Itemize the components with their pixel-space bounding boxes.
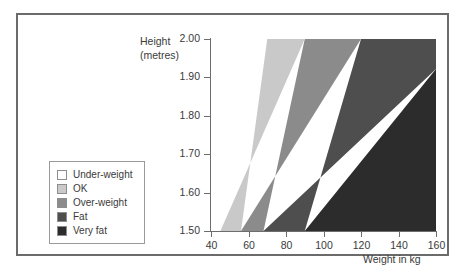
x-tick-100: 100 [324, 231, 325, 237]
y-tick-label-1.50: 1.50 [180, 224, 200, 237]
x-tick-label-160: 160 [428, 239, 446, 252]
x-tick-label-60: 60 [243, 239, 255, 252]
y-tick-label-1.60: 1.60 [180, 186, 200, 199]
legend-item-over-weight: Over-weight [57, 196, 138, 209]
y-axis-line [210, 38, 211, 232]
x-tick-80: 80 [286, 231, 287, 237]
legend-item-very-fat: Very fat [57, 224, 138, 237]
y-tick-label-2.00: 2.00 [180, 32, 200, 45]
y-axis-title-line2: (metres) [140, 49, 202, 63]
x-tick-40: 40 [211, 231, 212, 237]
legend-label-over-weight: Over-weight [73, 197, 127, 209]
y-tick-1.90: 1.90 [204, 77, 211, 78]
legend-swatch-ok [57, 184, 67, 194]
legend-item-fat: Fat [57, 210, 138, 223]
x-axis-title: Weight in kg [363, 253, 421, 265]
legend-swatch-fat [57, 212, 67, 222]
legend-item-ok: OK [57, 182, 138, 195]
y-tick-1.60: 1.60 [204, 193, 211, 194]
x-tick-140: 140 [399, 231, 400, 237]
y-tick-label-1.90: 1.90 [180, 70, 200, 83]
y-tick-1.50: 1.50 [204, 231, 211, 232]
x-tick-60: 60 [249, 231, 250, 237]
legend-label-ok: OK [73, 183, 87, 195]
plot-area [211, 39, 436, 231]
x-tick-label-120: 120 [353, 239, 371, 252]
legend-item-under-weight: Under-weight [57, 168, 138, 181]
x-tick-120: 120 [361, 231, 362, 237]
bmi-bands-svg [211, 39, 436, 231]
x-tick-label-80: 80 [281, 239, 293, 252]
legend-swatch-over-weight [57, 198, 67, 208]
y-tick-1.70: 1.70 [204, 154, 211, 155]
y-tick-label-1.70: 1.70 [180, 147, 200, 160]
legend-swatch-very-fat [57, 226, 67, 236]
y-tick-1.80: 1.80 [204, 116, 211, 117]
legend-label-very-fat: Very fat [73, 225, 107, 237]
x-tick-label-140: 140 [390, 239, 408, 252]
y-tick-label-1.80: 1.80 [180, 109, 200, 122]
figure-frame: Height (metres) 2.00 [16, 13, 449, 256]
bmi-chart-figure: Height (metres) 2.00 [0, 0, 465, 275]
legend-label-under-weight: Under-weight [73, 169, 132, 181]
y-tick-2.00: 2.00 [204, 39, 211, 40]
x-tick-label-100: 100 [315, 239, 333, 252]
legend: Under-weight OK Over-weight Fat Very fat [49, 161, 145, 244]
legend-swatch-under-weight [57, 170, 67, 180]
legend-label-fat: Fat [73, 211, 87, 223]
x-tick-label-40: 40 [206, 239, 218, 252]
x-tick-160: 160 [436, 231, 437, 237]
